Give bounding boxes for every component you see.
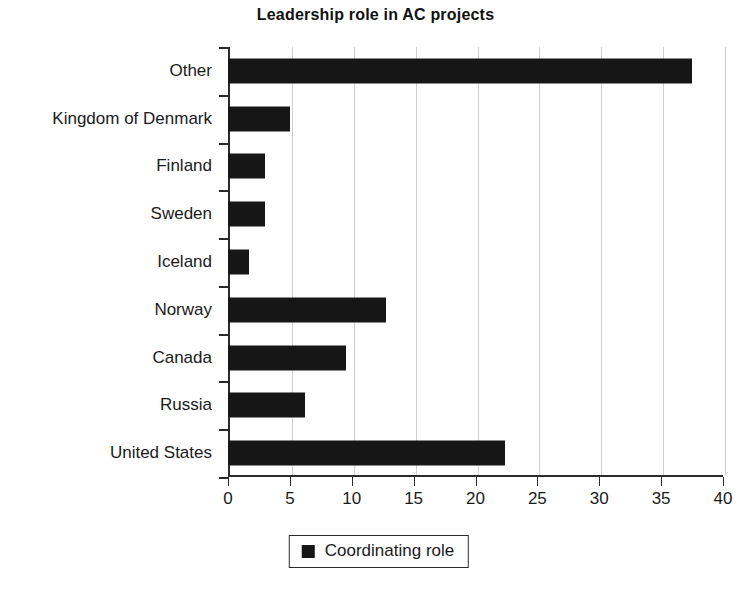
x-axis-tick [290, 477, 291, 486]
bar-row [228, 47, 723, 95]
bar [228, 154, 265, 179]
y-axis-tick [219, 95, 228, 97]
y-axis-label: Sweden [0, 205, 220, 222]
x-axis-tick [414, 477, 415, 486]
x-axis-tick [723, 477, 724, 486]
y-axis-tick [219, 47, 228, 49]
gridline [725, 47, 726, 475]
y-axis-tick [219, 286, 228, 288]
bar [228, 441, 505, 466]
bar [228, 393, 305, 418]
bar-series-coordinating-role [228, 47, 723, 477]
x-axis-label: 30 [574, 489, 624, 509]
y-axis-tick [219, 238, 228, 240]
y-axis-tick [219, 334, 228, 336]
bar-row [228, 143, 723, 191]
y-axis-tick [219, 477, 228, 479]
x-axis-label: 10 [327, 489, 377, 509]
x-axis-label: 35 [636, 489, 686, 509]
bar [228, 106, 290, 131]
y-axis-label: Other [0, 62, 220, 79]
y-axis-tick [219, 381, 228, 383]
x-axis-tick [476, 477, 477, 486]
x-axis-label: 15 [389, 489, 439, 509]
bar [228, 58, 692, 83]
y-axis-label: Finland [0, 157, 220, 174]
bar-chart: Leadership role in AC projects OtherKing… [0, 0, 751, 596]
y-axis-label: Kingdom of Denmark [0, 110, 220, 127]
bar-row [228, 190, 723, 238]
x-axis-tick [661, 477, 662, 486]
y-axis-tick [219, 429, 228, 431]
chart-legend: Coordinating role [289, 535, 469, 568]
x-axis-label: 20 [451, 489, 501, 509]
bar-row [228, 238, 723, 286]
bar [228, 297, 386, 322]
bar-row [228, 334, 723, 382]
bar-row [228, 429, 723, 477]
x-axis-tick [352, 477, 353, 486]
y-axis-tick [219, 143, 228, 145]
y-axis-label: Iceland [0, 253, 220, 270]
legend-label-coordinating-role: Coordinating role [325, 541, 454, 561]
chart-title: Leadership role in AC projects [0, 6, 751, 24]
x-axis-tick [228, 477, 229, 486]
y-axis-category-labels: OtherKingdom of DenmarkFinlandSwedenIcel… [0, 47, 220, 477]
y-axis-label: United States [0, 444, 220, 461]
x-axis-tick [599, 477, 600, 486]
y-axis-label: Russia [0, 396, 220, 413]
bar [228, 249, 249, 274]
bar [228, 202, 265, 227]
bar-row [228, 286, 723, 334]
x-axis-label: 25 [512, 489, 562, 509]
bar-row [228, 95, 723, 143]
bar-row [228, 381, 723, 429]
legend-swatch-icon [302, 545, 315, 558]
y-axis-label: Norway [0, 301, 220, 318]
x-axis-label: 5 [265, 489, 315, 509]
x-axis-tick [537, 477, 538, 486]
x-axis-label: 40 [698, 489, 748, 509]
x-axis-label: 0 [203, 489, 253, 509]
bar [228, 345, 346, 370]
y-axis-label: Canada [0, 349, 220, 366]
y-axis-tick [219, 190, 228, 192]
